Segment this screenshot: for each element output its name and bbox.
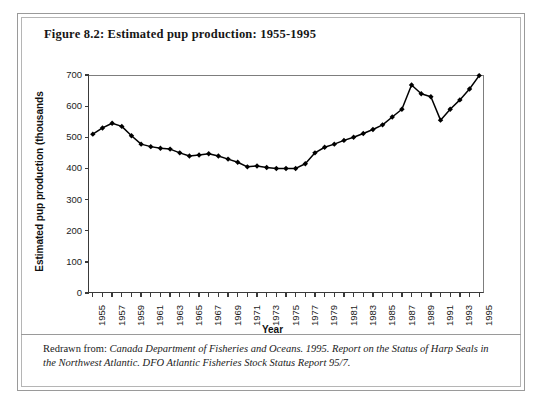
x-tick-mark [276,293,277,297]
data-point-marker [109,121,114,126]
x-tick-mark [160,293,161,297]
y-tick-mark [85,74,89,75]
x-tick-label: 1971 [251,305,262,326]
data-point-marker [351,135,356,140]
caption-divider [21,334,521,335]
x-tick-mark [305,293,306,297]
data-point-marker [428,94,433,99]
x-tick-mark [430,293,431,297]
x-tick-label: 1983 [367,305,378,326]
x-tick-mark [363,293,364,297]
x-tick-label: 1985 [386,305,397,326]
x-tick-mark [131,293,132,297]
x-tick-mark [411,293,412,297]
data-point-marker [158,145,163,150]
data-point-marker [187,153,192,158]
data-point-marker [148,144,153,149]
caption-source-reference: Canada Department of Fisheries and Ocean… [43,343,489,368]
x-tick-label: 1961 [154,305,165,326]
y-tick-mark [85,106,89,107]
x-tick-label: 1965 [193,305,204,326]
x-tick-mark [169,293,170,297]
data-point-marker [264,165,269,170]
data-point-marker [332,141,337,146]
x-tick-mark [324,293,325,297]
x-tick-label: 1959 [135,305,146,326]
x-tick-mark [469,293,470,297]
x-tick-mark [121,293,122,297]
x-tick-label: 1955 [96,305,107,326]
data-point-marker [341,138,346,143]
data-point-marker [216,153,221,158]
x-tick-label: 1987 [406,305,417,326]
y-tick-mark [85,292,89,293]
data-point-marker [196,152,201,157]
x-tick-mark [440,293,441,297]
data-point-marker [206,151,211,156]
x-tick-mark [459,293,460,297]
x-tick-mark [314,293,315,297]
x-tick-mark [179,293,180,297]
x-tick-label: 1991 [444,305,455,326]
x-tick-mark [421,293,422,297]
x-tick-label: 1995 [483,305,494,326]
x-tick-mark [372,293,373,297]
x-tick-mark [392,293,393,297]
x-tick-label: 1967 [212,305,223,326]
data-point-marker [283,166,288,171]
x-tick-mark [237,293,238,297]
x-tick-mark [150,293,151,297]
x-tick-label: 1963 [174,305,185,326]
x-tick-mark [198,293,199,297]
x-tick-mark [343,293,344,297]
x-tick-mark [285,293,286,297]
x-tick-mark [102,293,103,297]
x-tick-label: 1981 [348,305,359,326]
data-point-marker [235,160,240,165]
y-tick-mark [85,261,89,262]
caption-source-prefix: Redrawn from: [43,343,109,354]
x-tick-mark [111,293,112,297]
x-tick-mark [256,293,257,297]
x-tick-label: 1969 [232,305,243,326]
x-tick-mark [479,293,480,297]
data-point-marker [370,127,375,132]
series-line [93,76,479,169]
x-tick-mark [227,293,228,297]
data-point-marker [177,150,182,155]
figure-page: Figure 8.2: Estimated pup production: 19… [0,0,545,407]
x-tick-mark [92,293,93,297]
x-tick-label: 1977 [309,305,320,326]
y-tick-mark [85,199,89,200]
data-point-marker [361,131,366,136]
x-tick-mark [334,293,335,297]
y-tick-mark [85,230,89,231]
x-tick-label: 1975 [290,305,301,326]
x-tick-mark [266,293,267,297]
x-tick-label: 1979 [328,305,339,326]
x-tick-mark [382,293,383,297]
y-tick-mark [85,168,89,169]
data-point-marker [293,166,298,171]
data-point-marker [167,146,172,151]
x-tick-mark [295,293,296,297]
x-tick-mark [401,293,402,297]
x-tick-label: 1957 [116,305,127,326]
x-tick-mark [218,293,219,297]
x-tick-mark [189,293,190,297]
data-point-marker [225,156,230,161]
x-tick-mark [353,293,354,297]
data-point-marker [254,163,259,168]
x-tick-mark [140,293,141,297]
x-tick-label: 1973 [270,305,281,326]
x-tick-label: 1989 [425,305,436,326]
x-tick-mark [247,293,248,297]
x-tick-label: 1993 [463,305,474,326]
x-tick-mark [208,293,209,297]
figure-caption: Redrawn from: Canada Department of Fishe… [43,342,503,369]
data-point-marker [274,166,279,171]
data-point-marker [245,164,250,169]
x-tick-mark [450,293,451,297]
y-tick-mark [85,137,89,138]
